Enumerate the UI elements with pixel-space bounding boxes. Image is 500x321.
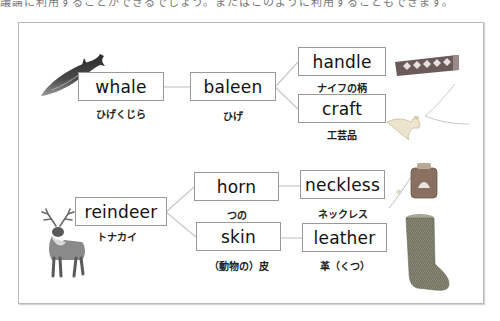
fur-boot-image	[403, 212, 453, 292]
node-whale: whale	[78, 72, 164, 101]
reindeer-image	[38, 208, 88, 280]
label-baleen-ja: ひげ	[190, 108, 276, 123]
node-leather: leather	[302, 223, 387, 252]
label-horn-ja: つの	[194, 207, 279, 222]
label-craft-ja: 工芸品	[298, 127, 386, 142]
label-handle-ja: ナイフの柄	[298, 80, 386, 95]
label-leather-ja: 革（くつ）	[300, 258, 389, 273]
node-baleen: baleen	[190, 72, 276, 101]
whale-tail-pendant-image	[385, 82, 470, 140]
node-horn: horn	[194, 172, 279, 201]
label-skin-ja: （動物の）皮	[191, 258, 286, 273]
label-whale-ja: ひげくじら	[78, 106, 164, 121]
node-craft: craft	[298, 94, 386, 123]
node-reindeer: reindeer	[75, 197, 167, 226]
pendant-necklace-image	[385, 160, 445, 212]
knife-handle-image	[393, 52, 461, 78]
node-skin: skin	[196, 222, 281, 251]
label-reindeer-ja: トナカイ	[75, 229, 167, 244]
node-handle: handle	[298, 47, 386, 76]
node-neckless: neckless	[300, 170, 385, 199]
label-neckless-ja: ネックレス	[300, 206, 385, 221]
